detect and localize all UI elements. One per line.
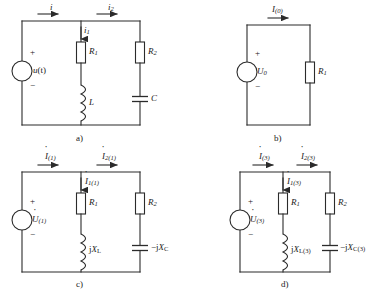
panel-b-caption: b) [274, 133, 282, 143]
c-inductor-body [81, 234, 86, 270]
a-resistor-r1-body [77, 42, 86, 63]
panel-b-circuit [237, 18, 315, 125]
c-source-plus-sign: + [30, 196, 35, 206]
c-resistor-r1-body [77, 193, 86, 214]
d-source-minus-sign: − [248, 229, 253, 239]
a-resistor-r2-label: R2 [148, 47, 157, 57]
d-reactance-inductive-label: jXL(3) [291, 245, 311, 255]
d-source-symbol [230, 210, 250, 230]
a-source-symbol [12, 61, 32, 81]
b-source-minus-sign: − [255, 81, 260, 91]
a-current-i-label: i [50, 3, 53, 12]
a-inductor-l-label: L [89, 98, 94, 107]
d-source-label: U(3) [250, 215, 264, 225]
a-current-i1-label: i1 [84, 26, 90, 36]
c-resistor-r2-body [136, 193, 145, 214]
c-reactance-inductive-label: jXL [89, 245, 101, 255]
c-source-symbol [12, 210, 32, 230]
d-resistor-r1-label: R1 [291, 198, 300, 208]
d-current-total-label: I(3) [259, 152, 270, 162]
a-resistor-r1-label: R1 [89, 47, 98, 57]
c-current-branch2-label: I2(1) [102, 152, 116, 162]
c-reactance-capacitive-label: −jXC [151, 243, 168, 253]
d-current-branch2-label: I2(3) [301, 152, 315, 162]
d-source-plus-sign: + [248, 196, 253, 206]
c-resistor-r2-label: R2 [148, 198, 157, 208]
panel-a-caption: a) [76, 133, 83, 143]
c-resistor-r1-label: R1 [89, 198, 98, 208]
d-resistor-r2-body [326, 193, 335, 214]
d-resistor-r2-label: R2 [338, 198, 347, 208]
d-reactance-capacitive-label: −jXC(3) [340, 243, 365, 253]
panel-d-caption: d) [281, 279, 289, 289]
a-source-minus-sign: − [30, 80, 35, 90]
d-inductor-body [283, 234, 288, 270]
b-resistor-r1-body [306, 62, 315, 83]
b-source-plus-sign: + [255, 48, 260, 58]
panel-d-circuit [230, 165, 338, 272]
b-source-symbol [237, 62, 257, 82]
circuit-figure-set: i i1 i2 + − u(t) R1 R2 L C a) I(0) + − U… [0, 0, 380, 297]
circuit-drawing-canvas [0, 0, 380, 297]
d-current-branch1-label: I1(3) [287, 177, 301, 187]
b-current-label: I(0) [272, 5, 283, 15]
a-source-plus-sign: + [30, 47, 35, 57]
panel-c-caption: c) [76, 279, 83, 289]
a-source-label: u(t) [33, 66, 46, 75]
c-source-label: U(1) [32, 215, 46, 225]
c-current-branch1-label: I1(1) [85, 177, 99, 187]
b-resistor-r1-label: R1 [318, 67, 327, 77]
b-source-label: U0 [257, 67, 267, 77]
a-capacitor-c-label: C [151, 94, 157, 103]
a-current-i2-label: i2 [108, 3, 114, 13]
a-inductor-l-body [81, 85, 86, 121]
c-current-total-label: I(1) [45, 152, 56, 162]
d-resistor-r1-body [279, 193, 288, 214]
c-source-minus-sign: − [30, 229, 35, 239]
a-resistor-r2-body [136, 42, 145, 63]
